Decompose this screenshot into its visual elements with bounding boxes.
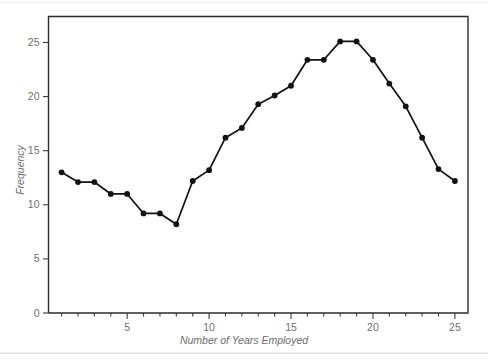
data-point [75, 179, 81, 185]
data-point [255, 101, 261, 107]
data-point [239, 125, 245, 131]
data-point [59, 169, 65, 175]
data-point [272, 93, 278, 99]
data-point [419, 135, 425, 141]
x-axis: 510152025 [62, 313, 461, 333]
data-point [223, 135, 229, 141]
data-point [370, 57, 376, 63]
data-series-frequency [59, 38, 458, 227]
data-point [354, 38, 360, 44]
data-point [157, 211, 163, 217]
plot-frame [49, 17, 469, 314]
data-point [108, 191, 114, 197]
y-tick-label: 20 [28, 90, 40, 102]
y-axis-title: Frequency [14, 144, 26, 194]
data-point [173, 221, 179, 227]
x-tick-label: 20 [367, 321, 379, 333]
data-point [452, 178, 458, 184]
x-tick-label: 15 [285, 321, 297, 333]
data-point [141, 211, 147, 217]
y-axis: 0510152025 [28, 36, 49, 319]
y-tick-label: 5 [34, 252, 40, 264]
data-point [91, 179, 97, 185]
x-tick-label: 10 [203, 321, 215, 333]
y-tick-label: 0 [34, 307, 40, 319]
x-axis-title: Number of Years Employed [180, 334, 309, 346]
y-tick-label: 10 [28, 198, 40, 210]
data-point [305, 57, 311, 63]
data-point-group [59, 38, 458, 227]
data-point [321, 57, 327, 63]
data-point [206, 167, 212, 173]
chart-canvas: 0510152025 510152025 Number of Years Emp… [0, 0, 488, 360]
x-tick-label: 5 [124, 321, 130, 333]
data-point [124, 191, 130, 197]
data-point [403, 103, 409, 109]
y-tick-label: 15 [28, 144, 40, 156]
data-point [337, 38, 343, 44]
data-point [386, 81, 392, 87]
y-tick-label: 25 [28, 36, 40, 48]
data-point [436, 166, 442, 172]
screenshot-root: 0510152025 510152025 Number of Years Emp… [0, 0, 488, 360]
x-tick-label: 25 [449, 321, 461, 333]
scan-edge-bottom-shadow [0, 353, 488, 354]
line-chart-figure: 0510152025 510152025 Number of Years Emp… [0, 0, 488, 360]
data-point [190, 178, 196, 184]
data-point [288, 83, 294, 89]
